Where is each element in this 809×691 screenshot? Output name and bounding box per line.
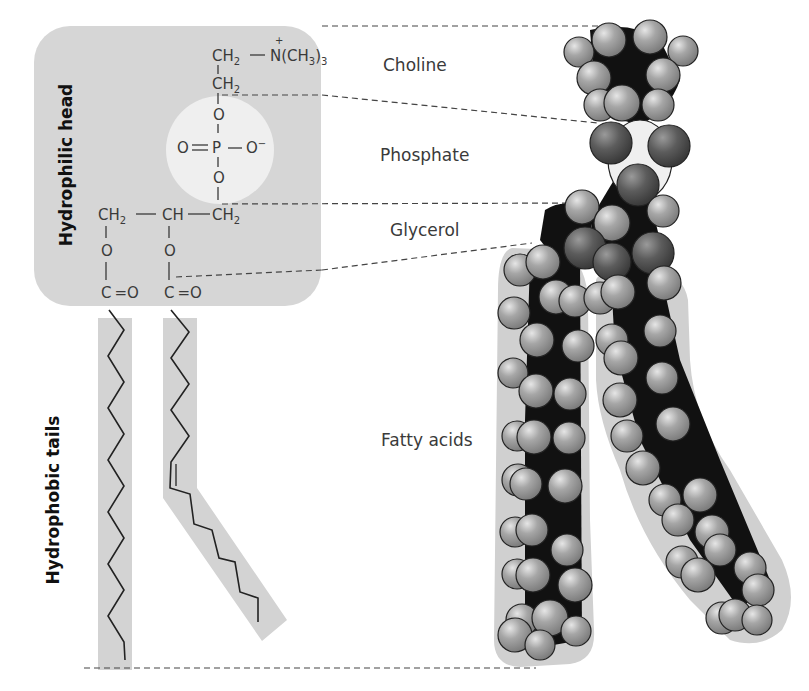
ester-o-right: O (164, 242, 176, 260)
glycerol-ch: CH (162, 206, 184, 224)
choline-label: Choline (383, 55, 447, 75)
unsaturated-tail-band (163, 318, 287, 641)
hydrophobic-tails-region: Hydrophobic tails (43, 310, 287, 670)
phosphate-o-bottom: O (213, 169, 225, 187)
ester-o-left: O (101, 242, 113, 260)
hydrophilic-head-label: Hydrophilic head (56, 84, 76, 247)
phospholipid-diagram: Hydrophilic head CH2 N(CH3)3 + CH2 O O P… (0, 0, 809, 691)
ester-carbonyl-right: C=O (164, 284, 202, 302)
hydrophilic-head-region: Hydrophilic head (34, 26, 321, 306)
hydrophobic-tails-label: Hydrophobic tails (43, 416, 63, 585)
trimethylammonium: N(CH3)3 (270, 47, 327, 67)
phosphorus: P (212, 139, 221, 157)
saturated-tail-band (98, 318, 132, 670)
positive-charge: + (275, 35, 283, 46)
ester-carbonyl-left: C=O (101, 284, 139, 302)
glycerol-label: Glycerol (390, 220, 460, 240)
phosphate-o-double: O (177, 139, 189, 157)
space-filling-model (494, 20, 791, 667)
fatty-acids-label: Fatty acids (381, 430, 473, 450)
phosphate-label: Phosphate (380, 145, 469, 165)
phosphate-o-top: O (213, 106, 225, 124)
